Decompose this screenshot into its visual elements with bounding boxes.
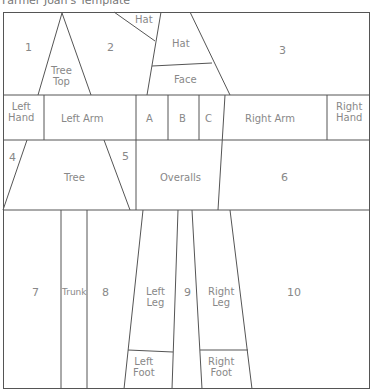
piece-b: B bbox=[179, 113, 186, 124]
piece-right-leg: Right Leg bbox=[208, 286, 234, 308]
piece-hat: Hat bbox=[172, 38, 190, 49]
template-diagram bbox=[0, 0, 373, 391]
piece-a: A bbox=[146, 113, 153, 124]
piece-9: 9 bbox=[184, 287, 191, 298]
piece-left-foot: Left Foot bbox=[133, 356, 155, 378]
piece-4: 4 bbox=[9, 152, 16, 163]
piece-2: 2 bbox=[107, 42, 114, 53]
piece-7: 7 bbox=[32, 287, 39, 298]
piece-c: C bbox=[205, 113, 212, 124]
piece-tree: Tree bbox=[64, 172, 85, 183]
piece-face: Face bbox=[174, 74, 197, 85]
piece-overalls: Overalls bbox=[160, 172, 201, 183]
piece-left-leg: Left Leg bbox=[146, 286, 165, 308]
piece-right-arm: Right Arm bbox=[245, 113, 295, 124]
hat-face-divider bbox=[152, 63, 212, 66]
piece-1: 1 bbox=[25, 42, 32, 53]
piece-6: 6 bbox=[281, 172, 288, 183]
piece-3: 3 bbox=[279, 45, 286, 56]
piece-right-foot: Right Foot bbox=[208, 356, 234, 378]
piece-left-arm: Left Arm bbox=[61, 113, 104, 124]
piece-8: 8 bbox=[102, 287, 109, 298]
piece-right-hand: Right Hand bbox=[336, 101, 362, 123]
piece-hat-small: Hat bbox=[135, 14, 153, 25]
piece-10: 10 bbox=[287, 287, 301, 298]
piece-trunk: Trunk bbox=[62, 287, 87, 298]
piece-5: 5 bbox=[122, 151, 129, 162]
piece-left-hand: Left Hand bbox=[8, 101, 34, 123]
piece-tree-top: Tree Top bbox=[51, 65, 72, 87]
